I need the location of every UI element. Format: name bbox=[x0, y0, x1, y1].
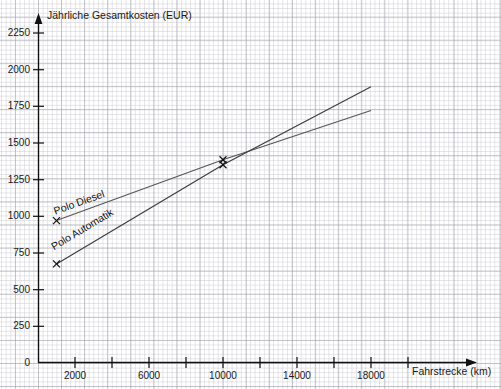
y-axis-title: Jährliche Gesamtkosten (EUR) bbox=[47, 9, 192, 21]
x-axis-title: Fahrstrecke (km) bbox=[412, 365, 491, 377]
chart-container: 2250 2000 1750 1500 1250 1000 750 500 25… bbox=[0, 0, 501, 389]
series-line-polo-automatik bbox=[57, 87, 372, 264]
y-tick-label-2250: 2250 bbox=[0, 28, 30, 38]
series-line-polo-diesel bbox=[57, 111, 372, 221]
y-tick-label-750: 750 bbox=[0, 248, 30, 258]
y-tick-label-1500: 1500 bbox=[0, 138, 30, 148]
y-tick-label-0: 0 bbox=[0, 358, 30, 368]
y-tick-label-1250: 1250 bbox=[0, 175, 30, 185]
x-tick-label-2000: 2000 bbox=[49, 371, 101, 381]
x-tick-label-6000: 6000 bbox=[123, 371, 175, 381]
x-tick-label-18000: 18000 bbox=[345, 371, 397, 381]
y-tick-label-1750: 1750 bbox=[0, 101, 30, 111]
y-tick-label-2000: 2000 bbox=[0, 65, 30, 75]
x-tick-label-14000: 14000 bbox=[271, 371, 323, 381]
y-tick-label-250: 250 bbox=[0, 321, 30, 331]
y-axis-arrow bbox=[35, 13, 43, 24]
y-tick-label-500: 500 bbox=[0, 285, 30, 295]
y-tick-label-1000: 1000 bbox=[0, 211, 30, 221]
plot-svg bbox=[0, 0, 501, 389]
x-tick-label-10000: 10000 bbox=[197, 371, 249, 381]
